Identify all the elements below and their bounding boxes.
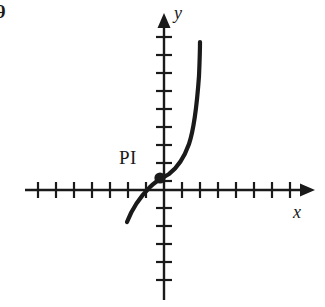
x-axis-arrowhead	[300, 184, 315, 197]
y-axis-arrowhead	[158, 13, 171, 28]
x-axis-group	[25, 182, 315, 198]
coordinate-plot	[0, 0, 325, 307]
problem-number: 9	[0, 2, 6, 21]
math-figure: 9 PI y x	[0, 0, 325, 307]
x-axis-label: x	[293, 203, 301, 221]
inflection-point-label: PI	[119, 148, 137, 167]
y-axis-group	[156, 13, 172, 300]
y-axis-label: y	[174, 4, 182, 22]
inflection-point-marker	[154, 172, 165, 183]
